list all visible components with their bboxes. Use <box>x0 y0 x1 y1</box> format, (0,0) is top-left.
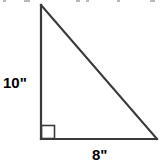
base-measurement-label: 8" <box>92 147 107 162</box>
figure-canvas: 10" 8" <box>0 0 164 168</box>
vertical-leg-measurement-label: 10" <box>3 75 27 90</box>
right-angle-square-icon <box>42 126 55 139</box>
hypotenuse <box>41 5 157 139</box>
